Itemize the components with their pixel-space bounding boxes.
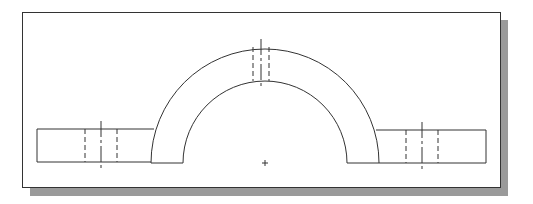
right-flange (376, 130, 486, 163)
left-flange (37, 129, 154, 162)
center-mark (262, 160, 268, 166)
bracket-drawing (0, 0, 533, 204)
arch-inner-edge (183, 81, 347, 163)
